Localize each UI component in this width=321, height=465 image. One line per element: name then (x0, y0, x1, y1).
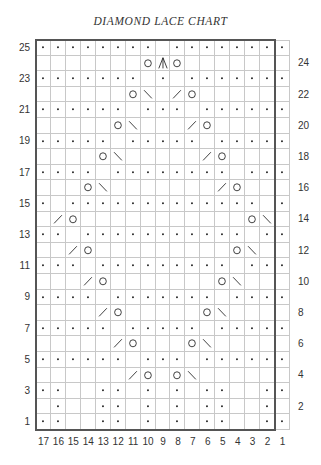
chart-cell (200, 321, 215, 337)
chart-cell (275, 274, 290, 290)
chart-title: DIAMOND LACE CHART (0, 15, 321, 27)
chart-cell (245, 290, 260, 306)
purl-dot-icon (81, 227, 95, 242)
chart-cell (156, 212, 171, 228)
chart-cell (230, 414, 245, 430)
chart-cell (51, 40, 66, 56)
purl-dot-icon (96, 258, 110, 273)
yarn-over-icon (96, 274, 110, 289)
chart-cell (260, 258, 275, 274)
purl-dot-icon (185, 165, 199, 180)
chart-cell (215, 180, 230, 196)
chart-cell (66, 336, 81, 352)
row-number-label: 5 (8, 354, 30, 365)
row-number-label: 24 (298, 57, 320, 68)
chart-cell (141, 149, 156, 165)
chart-cell (230, 305, 245, 321)
chart-cell (111, 243, 126, 259)
chart-cell (111, 368, 126, 384)
chart-cell (200, 243, 215, 259)
chart-cell (170, 134, 185, 150)
purl-dot-icon (260, 383, 274, 398)
chart-cell (170, 87, 185, 103)
chart-cell (111, 383, 126, 399)
yarn-over-icon (200, 305, 214, 320)
chart-cell (230, 165, 245, 181)
chart-cell (111, 40, 126, 56)
chart-cell (170, 149, 185, 165)
chart-cell (200, 368, 215, 384)
chart-cell (245, 71, 260, 87)
chart-cell (81, 368, 96, 384)
chart-cell (215, 258, 230, 274)
purl-dot-icon (185, 134, 199, 149)
purl-dot-icon (96, 40, 110, 55)
chart-cell (185, 40, 200, 56)
purl-dot-icon (275, 414, 289, 429)
chart-cell (245, 40, 260, 56)
chart-cell (66, 399, 81, 415)
purl-dot-icon (200, 196, 214, 211)
chart-cell (200, 414, 215, 430)
purl-dot-icon (275, 321, 289, 336)
chart-cell (260, 165, 275, 181)
chart-cell (81, 134, 96, 150)
purl-dot-icon (66, 258, 80, 273)
row-number-label: 14 (298, 213, 320, 224)
chart-cell (156, 274, 171, 290)
purl-dot-icon (245, 258, 259, 273)
chart-cell (200, 196, 215, 212)
chart-cell (81, 258, 96, 274)
chart-cell (96, 87, 111, 103)
chart-cell (200, 258, 215, 274)
chart-cell (96, 383, 111, 399)
row-number-label: 25 (8, 42, 30, 53)
chart-cell (185, 258, 200, 274)
chart-cell (36, 196, 51, 212)
chart-cell (260, 180, 275, 196)
chart-cell (51, 258, 66, 274)
purl-dot-icon (156, 227, 170, 242)
chart-cell (215, 71, 230, 87)
purl-dot-icon (200, 258, 214, 273)
ssk-icon (111, 149, 125, 164)
purl-dot-icon (141, 352, 155, 367)
purl-dot-icon (185, 40, 199, 55)
chart-cell (185, 149, 200, 165)
chart-cell (81, 414, 96, 430)
purl-dot-icon (260, 352, 274, 367)
row-number-label: 15 (8, 198, 30, 209)
chart-cell (51, 227, 66, 243)
chart-cell (51, 165, 66, 181)
purl-dot-icon (245, 134, 259, 149)
chart-cell (230, 352, 245, 368)
chart-cell (230, 258, 245, 274)
chart-cell (185, 165, 200, 181)
k2tog-icon (126, 368, 140, 383)
chart-cell (36, 40, 51, 56)
purl-dot-icon (96, 414, 110, 429)
chart-cell (156, 383, 171, 399)
purl-dot-icon (81, 165, 95, 180)
chart-cell (81, 165, 96, 181)
chart-cell (170, 102, 185, 118)
row-number-label: 2 (298, 401, 320, 412)
chart-cell (66, 414, 81, 430)
chart-cell (245, 383, 260, 399)
purl-dot-icon (245, 321, 259, 336)
chart-cell (81, 243, 96, 259)
chart-cell (66, 56, 81, 72)
chart-cell (96, 149, 111, 165)
purl-dot-icon (66, 71, 80, 86)
chart-cell (260, 399, 275, 415)
chart-cell (170, 321, 185, 337)
purl-dot-icon (66, 102, 80, 117)
chart-cell (156, 227, 171, 243)
chart-cell (185, 56, 200, 72)
purl-dot-icon (126, 165, 140, 180)
chart-cell (66, 118, 81, 134)
chart-cell (51, 71, 66, 87)
column-number-label: 9 (156, 436, 171, 447)
chart-cell (66, 258, 81, 274)
chart-cell (275, 196, 290, 212)
